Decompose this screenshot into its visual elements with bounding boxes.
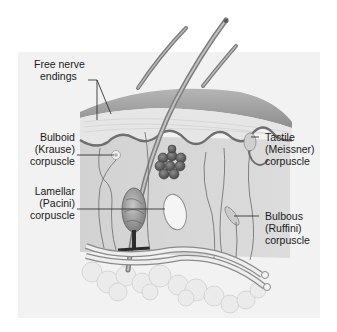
label-line: (Meissner): [265, 143, 315, 155]
label-bulboid-corpuscle: Bulboid (Krause) corpuscle: [30, 131, 75, 167]
label-line: corpuscle: [265, 155, 315, 167]
label-line: (Ruffini): [265, 222, 310, 234]
label-tactile-corpuscle: Tactile (Meissner) corpuscle: [265, 131, 315, 167]
label-line: Free nerve: [34, 58, 85, 70]
label-free-nerve-endings: Free nerve endings: [34, 58, 85, 82]
label-line: Bulboid: [30, 131, 75, 143]
label-line: Lamellar: [30, 185, 75, 197]
tactile-corpuscle-structure: [244, 133, 256, 151]
label-line: Tactile: [265, 131, 315, 143]
label-lamellar-corpuscle: Lamellar (Pacini) corpuscle: [30, 185, 75, 221]
label-bulbous-corpuscle: Bulbous (Ruffini) corpuscle: [265, 210, 310, 246]
label-line: Bulbous: [265, 210, 310, 222]
label-line: (Krause): [30, 143, 75, 155]
label-line: (Pacini): [30, 197, 75, 209]
label-line: corpuscle: [30, 209, 75, 221]
label-line: endings: [34, 70, 85, 82]
label-line: corpuscle: [30, 155, 75, 167]
label-line: corpuscle: [265, 234, 310, 246]
